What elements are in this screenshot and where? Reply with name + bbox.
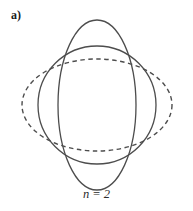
superellipse-diagram	[0, 0, 193, 211]
horizontal-ellipse-curve	[22, 59, 172, 151]
figure-panel: a) n = 2	[0, 0, 193, 211]
figure-caption: n = 2	[0, 186, 193, 202]
circle-curve	[38, 46, 156, 164]
